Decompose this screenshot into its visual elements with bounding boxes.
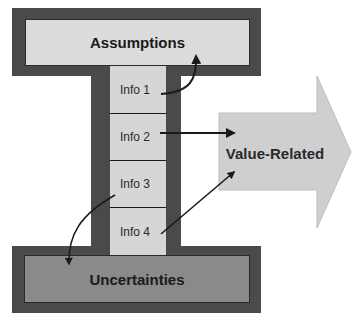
info3-to-uncertainties-arrow — [69, 195, 115, 264]
info1-to-assumptions-arrow — [161, 56, 196, 94]
info4-to-value-arrow — [161, 172, 234, 234]
connector-arrows — [0, 0, 359, 323]
